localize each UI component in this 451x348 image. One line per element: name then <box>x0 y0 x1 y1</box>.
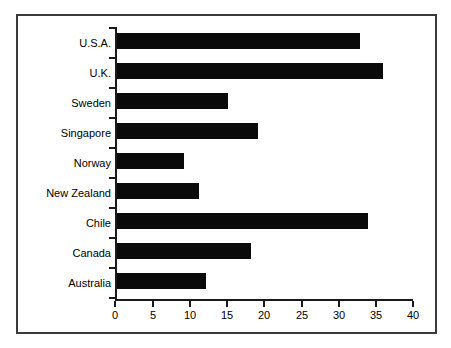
x-axis-tick-label: 30 <box>324 308 354 322</box>
y-axis-tick <box>109 237 115 239</box>
x-axis-tick <box>114 301 116 307</box>
category-label-canada: Canada <box>72 246 111 260</box>
bar-australia <box>117 273 206 289</box>
x-axis-tick-label: 25 <box>287 308 317 322</box>
bar-new-zealand <box>117 183 199 199</box>
category-label-chile: Chile <box>86 216 111 230</box>
category-label-usa: U.S.A. <box>79 36 111 50</box>
x-axis-tick-label: 5 <box>138 308 168 322</box>
y-axis-tick <box>109 147 115 149</box>
bar-uk <box>117 63 383 79</box>
x-axis-tick <box>263 301 265 307</box>
x-axis-tick <box>301 301 303 307</box>
y-axis-tick <box>109 177 115 179</box>
y-axis-tick <box>109 297 115 299</box>
x-axis-tick-label: 40 <box>398 308 428 322</box>
y-axis-tick <box>109 57 115 59</box>
category-label-sweden: Sweden <box>71 96 111 110</box>
chart-frame: 0 5 10 15 20 25 30 35 40 U.S.A. U.K. Swe… <box>16 14 437 334</box>
category-label-uk: U.K. <box>90 66 111 80</box>
x-axis-tick <box>226 301 228 307</box>
bar-singapore <box>117 123 258 139</box>
category-label-new-zealand: New Zealand <box>46 186 111 200</box>
bar-norway <box>117 153 184 169</box>
plot-area: 0 5 10 15 20 25 30 35 40 U.S.A. U.K. Swe… <box>18 16 439 336</box>
y-axis-tick <box>109 267 115 269</box>
x-axis-tick <box>189 301 191 307</box>
category-label-singapore: Singapore <box>61 126 111 140</box>
y-axis-tick <box>109 87 115 89</box>
x-axis-tick <box>375 301 377 307</box>
y-axis-tick <box>109 27 115 29</box>
x-axis-tick <box>412 301 414 307</box>
y-axis-tick <box>109 207 115 209</box>
x-axis-tick <box>152 301 154 307</box>
x-axis-tick-label: 0 <box>100 308 130 322</box>
x-axis-tick-label: 10 <box>175 308 205 322</box>
category-label-norway: Norway <box>74 156 111 170</box>
y-axis-tick <box>109 117 115 119</box>
bar-sweden <box>117 93 228 109</box>
category-label-australia: Australia <box>68 276 111 290</box>
x-axis-tick-label: 15 <box>212 308 242 322</box>
bar-canada <box>117 243 251 259</box>
bar-usa <box>117 33 360 49</box>
x-axis-tick <box>338 301 340 307</box>
x-axis-tick-label: 35 <box>361 308 391 322</box>
bar-chile <box>117 213 368 229</box>
x-axis-tick-label: 20 <box>249 308 279 322</box>
